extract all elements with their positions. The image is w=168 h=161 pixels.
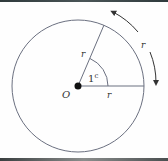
radius-label-angled: r <box>81 49 86 59</box>
radius-label-horizontal: r <box>107 90 112 100</box>
radian-diagram: O r r r 1c <box>0 0 168 161</box>
bottom-border <box>0 158 168 161</box>
angle-label-unit: c <box>94 72 98 80</box>
arc-arrow-lower <box>150 52 156 83</box>
center-dot <box>75 83 82 90</box>
angle-label: 1c <box>88 72 98 84</box>
diagram-frame: O r r r 1c <box>0 0 168 161</box>
arc-arrow-upper <box>113 12 138 32</box>
center-label: O <box>62 89 70 100</box>
arc-label: r <box>141 40 146 50</box>
